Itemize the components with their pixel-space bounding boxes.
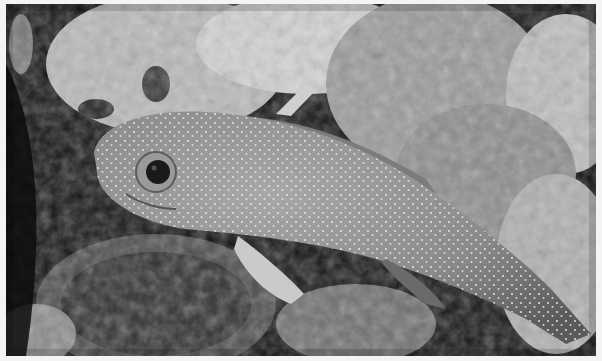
grouper-fish-scene <box>6 4 596 356</box>
underwater-photo <box>6 4 596 356</box>
fish-eye <box>136 152 176 192</box>
photo-frame <box>0 0 602 361</box>
